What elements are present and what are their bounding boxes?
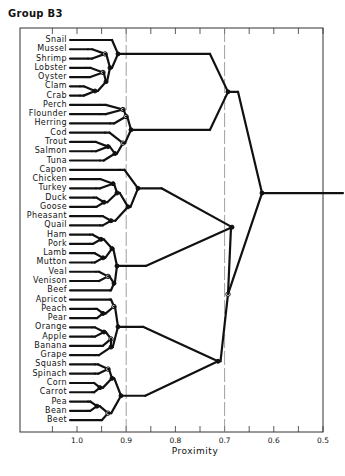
x-tick-label: 0.9 [120, 436, 132, 445]
branch [114, 378, 121, 395]
branch [131, 188, 139, 207]
x-tick-label: 1.0 [71, 436, 83, 445]
branch [210, 54, 228, 92]
branch [146, 227, 232, 266]
branch [162, 188, 233, 227]
x-tick-label: 0.8 [169, 436, 181, 445]
branch [210, 92, 228, 130]
branch [113, 249, 117, 266]
node-icon [226, 90, 230, 94]
branch [143, 327, 218, 361]
x-axis-label: Proximity [172, 446, 218, 456]
branch [238, 92, 262, 193]
x-tick-label: 0.7 [219, 436, 231, 445]
branch [228, 193, 262, 294]
branch [145, 361, 218, 395]
branch [115, 307, 118, 327]
branch [115, 266, 117, 283]
x-tick-label: 0.6 [268, 436, 280, 445]
branch [113, 327, 118, 347]
plot-frame [20, 28, 323, 432]
branch [111, 396, 121, 413]
dendrogram [0, 0, 345, 476]
x-tick-label: 0.5 [317, 436, 329, 445]
